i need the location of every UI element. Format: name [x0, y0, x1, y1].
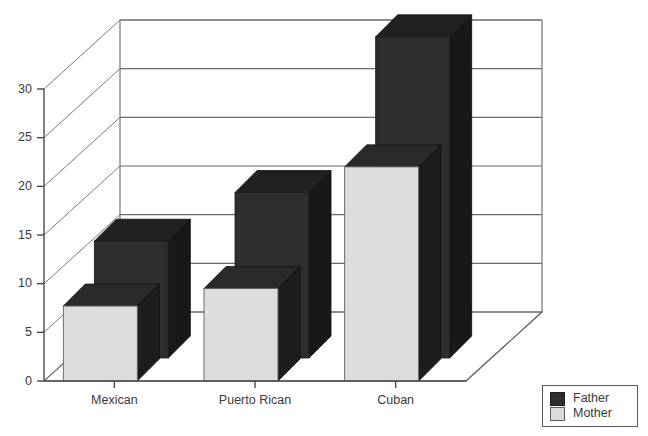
y-tick-label: 25	[18, 130, 32, 144]
y-tick-label: 20	[18, 179, 32, 193]
y-tick-label: 10	[18, 276, 32, 290]
mother-swatch-icon	[550, 407, 565, 421]
chart-legend: Father Mother	[542, 385, 638, 427]
legend-item-father: Father	[550, 391, 628, 406]
legend-item-mother: Mother	[550, 406, 628, 421]
bar-chart-3d: 051015202530 MexicanPuerto RicanCuban	[0, 0, 648, 436]
chart-container: 051015202530 MexicanPuerto RicanCuban Fa…	[0, 0, 648, 436]
bars-group	[63, 15, 471, 381]
y-tick-label: 5	[25, 325, 32, 339]
mother-bar-0	[63, 284, 159, 381]
legend-label-father: Father	[573, 391, 609, 406]
y-tick-label: 15	[18, 228, 32, 242]
father-swatch-icon	[550, 392, 565, 406]
y-tick-label: 30	[18, 82, 32, 96]
x-category-label: Puerto Rican	[219, 393, 291, 407]
mother-bar-1	[204, 267, 300, 381]
x-category-label: Mexican	[91, 393, 138, 407]
y-axis: 051015202530	[18, 82, 44, 388]
x-category-label: Cuban	[377, 393, 414, 407]
legend-label-mother: Mother	[573, 406, 612, 421]
mother-bar-2	[345, 145, 441, 381]
y-tick-label: 0	[25, 374, 32, 388]
